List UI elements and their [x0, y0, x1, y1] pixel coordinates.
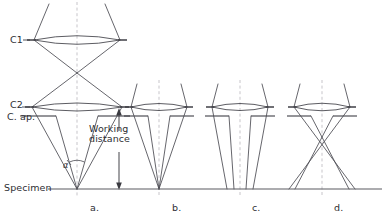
label-c1: C1: [10, 35, 23, 45]
label-working-distance-line2: distance: [89, 134, 130, 144]
panel-a-crossover-rays: [32, 40, 122, 107]
diagram-canvas: [0, 0, 386, 221]
label-working-distance: Working distance: [89, 124, 130, 144]
working-distance-dimension: [116, 108, 122, 190]
label-convergence-angle-alpha: α: [63, 162, 68, 170]
panel-c-group: [205, 80, 275, 196]
panel-a-group: [20, 2, 130, 196]
label-condenser-aperture: C. ap.: [7, 112, 35, 122]
panel-label-a: a.: [90, 203, 99, 213]
label-c2: C2: [10, 100, 23, 110]
label-specimen: Specimen: [4, 183, 52, 193]
panel-label-d: d.: [334, 203, 343, 213]
panel-label-b: b.: [172, 203, 181, 213]
panel-d-group: [287, 80, 357, 196]
condenser-ray-diagram-figure: C1 C2 C. ap. Specimen Working distance α…: [0, 0, 386, 221]
panel-b-group: [124, 80, 194, 196]
panel-label-c: c.: [252, 203, 260, 213]
